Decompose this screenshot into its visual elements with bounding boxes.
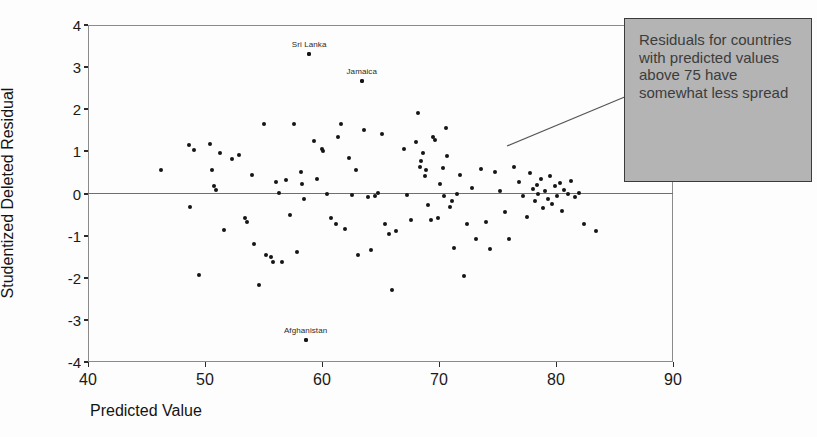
y-tick [84,24,88,26]
data-point [390,288,394,292]
data-point [188,205,192,209]
data-point [452,246,456,250]
point-label: Sri Lanka [292,40,327,49]
data-point [424,168,428,172]
data-point [507,237,511,241]
data-point [550,202,554,206]
x-tick-label: 40 [79,371,97,389]
x-tick-label: 60 [313,371,331,389]
data-point [284,178,288,182]
data-point [517,180,521,184]
data-point [577,191,581,195]
data-point [214,188,218,192]
data-point [444,126,448,130]
x-tick [322,362,323,367]
data-point [479,167,483,171]
data-point [210,168,214,172]
data-point [383,222,387,226]
data-point [300,182,304,186]
data-point [237,153,241,157]
data-point [192,148,196,152]
data-point [187,143,191,147]
data-point [262,122,266,126]
data-point [573,195,577,199]
plot-area: 43210-1-2-3-4 405060708090 Sri LankaJama… [88,25,673,362]
data-point [484,220,488,224]
data-point-labeled [307,52,311,56]
data-point [380,132,384,136]
data-point [512,165,516,169]
y-tick-label: -1 [68,227,81,244]
data-point [409,218,413,222]
data-point [339,122,343,126]
data-point-labeled [304,338,308,342]
data-point [354,168,358,172]
data-point [503,210,507,214]
data-point [325,192,329,196]
data-point [369,248,373,252]
data-point [350,193,354,197]
y-tick-label: 4 [73,17,81,34]
data-point [525,215,529,219]
data-point [321,149,325,153]
y-axis-title: Studentized Deleted Residual [0,88,17,299]
data-point [536,192,540,196]
data-point [442,194,446,198]
data-point [474,237,478,241]
data-point [458,173,462,177]
data-point [334,222,338,226]
data-point [419,159,423,163]
annotation-callout: Residuals for countries with predicted v… [624,18,812,182]
data-point [197,273,201,277]
data-point [312,139,316,143]
x-tick [88,362,89,367]
y-tick [84,66,88,68]
data-point [455,192,459,196]
data-point [347,156,351,160]
data-point [414,140,418,144]
data-point [594,229,598,233]
y-tick [84,193,88,195]
data-point [356,253,360,257]
x-tick [205,362,206,367]
data-point [387,232,391,236]
data-point [553,184,557,188]
data-point [441,166,445,170]
zero-reference-line [88,193,673,194]
y-tick [84,319,88,321]
data-point [159,168,163,172]
data-point [280,260,284,264]
data-point [218,151,222,155]
data-point [250,173,254,177]
data-point [269,255,273,259]
y-tick [84,108,88,110]
y-tick-label: 3 [73,59,81,76]
data-point [546,197,550,201]
data-point [465,222,469,226]
data-point [329,216,333,220]
data-point [416,111,420,115]
data-point [288,213,292,217]
y-tick-label: 2 [73,101,81,118]
data-point [539,177,543,181]
data-point [448,205,452,209]
data-point [445,154,449,158]
data-point [376,191,380,195]
data-point [436,216,440,220]
data-point [462,274,466,278]
point-label: Jamaica [347,67,378,76]
x-tick [556,362,557,367]
data-point [429,218,433,222]
point-label: Afghanistan [284,326,327,335]
data-point [277,191,281,195]
data-point [405,193,409,197]
data-point [222,228,226,232]
data-point [493,170,497,174]
y-tick-label: -3 [68,311,81,328]
data-point [343,227,347,231]
x-tick [673,362,674,367]
data-point [488,247,492,251]
data-point [433,138,437,142]
x-axis-title: Predicted Value [90,402,202,420]
data-point [315,177,319,181]
